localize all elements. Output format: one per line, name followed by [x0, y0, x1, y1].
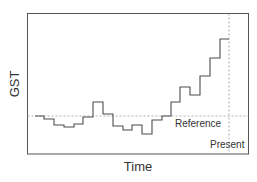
reference-label: Reference — [175, 118, 222, 129]
y-axis-label: GST — [7, 71, 22, 98]
x-axis-label: Time — [124, 159, 152, 174]
plot-frame — [28, 14, 249, 155]
present-label: Present — [210, 139, 245, 150]
gst-step-chart: GST Time Reference Present — [0, 0, 257, 182]
